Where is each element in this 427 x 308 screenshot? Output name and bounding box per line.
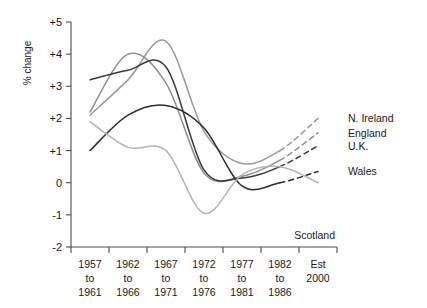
y-tick-label: -1 xyxy=(52,209,62,221)
y-tick-label: +5 xyxy=(49,16,62,28)
chart-labels: N. IrelandEnglandU.K.WalesScotland xyxy=(294,112,394,241)
x-tick-label: 1962 xyxy=(116,258,140,270)
series-forecast-u-k xyxy=(280,146,318,167)
x-tick-label: 1981 xyxy=(230,286,254,298)
x-tick-label: 1976 xyxy=(192,286,216,298)
x-tick-label: 1967 xyxy=(154,258,178,270)
x-tick-label: to xyxy=(238,272,247,284)
series-line-scotland xyxy=(90,122,280,214)
chart-axes: +5+4+3+2+10-1-21957to19611962to19661967t… xyxy=(22,16,337,298)
y-tick-label: 0 xyxy=(56,177,62,189)
series-forecast-n-ireland xyxy=(280,118,318,150)
x-tick-label: 1971 xyxy=(154,286,178,298)
x-tick-label: 1961 xyxy=(78,286,102,298)
chart-container: +5+4+3+2+10-1-21957to19611962to19661967t… xyxy=(0,0,427,308)
x-tick-label: to xyxy=(200,272,209,284)
x-tick-label: 1986 xyxy=(268,286,292,298)
x-tick-label: to xyxy=(124,272,133,284)
x-tick-label: 2000 xyxy=(306,272,330,284)
chart-series-lines xyxy=(90,40,318,214)
x-tick-label: 1957 xyxy=(78,258,102,270)
series-label-scotland: Scotland xyxy=(294,229,335,241)
series-line-n-ireland xyxy=(90,40,280,164)
y-tick-label: +1 xyxy=(49,145,62,157)
x-tick-label: 1977 xyxy=(230,258,254,270)
series-label-wales: Wales xyxy=(348,165,377,177)
series-label-england: England xyxy=(348,127,387,139)
y-tick-label: +3 xyxy=(49,80,62,92)
y-tick-label: +2 xyxy=(49,112,62,124)
x-tick-label: 1982 xyxy=(268,258,292,270)
series-label-n-ireland: N. Ireland xyxy=(348,112,394,124)
y-axis-title: % change xyxy=(22,40,33,85)
y-tick-label: +4 xyxy=(49,48,62,60)
x-tick-label: to xyxy=(162,272,171,284)
y-tick-label: -2 xyxy=(52,241,62,253)
series-line-scotland-tail xyxy=(280,167,318,183)
x-tick-label: to xyxy=(86,272,95,284)
x-tick-label: Est xyxy=(310,258,325,270)
x-tick-label: 1966 xyxy=(116,286,140,298)
x-tick-label: to xyxy=(276,272,285,284)
series-label-u-k: U.K. xyxy=(348,140,368,152)
series-line-u-k xyxy=(90,60,280,181)
line-chart: +5+4+3+2+10-1-21957to19611962to19661967t… xyxy=(0,0,427,308)
x-tick-label: 1972 xyxy=(192,258,216,270)
